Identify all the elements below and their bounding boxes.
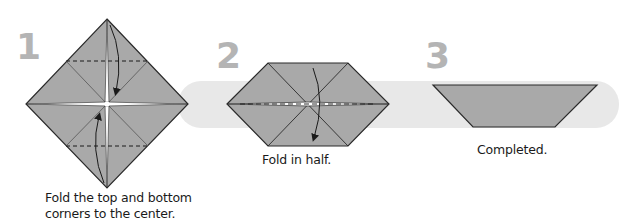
step-1-diamond xyxy=(26,19,188,188)
center-cross xyxy=(27,20,187,187)
step-1-caption: Fold the top and bottom corners to the c… xyxy=(45,190,192,222)
step-2-hexagon xyxy=(227,63,389,146)
origami-diagram: 1 2 3 Fold the top and bottom corners to… xyxy=(0,0,621,222)
step-3-caption: Completed. xyxy=(477,142,547,158)
diagram-canvas xyxy=(0,0,621,222)
step-1-number: 1 xyxy=(16,29,41,65)
step-2-number: 2 xyxy=(216,38,241,74)
step-2-caption: Fold in half. xyxy=(262,152,331,168)
step-1-caption-line2: corners to the center. xyxy=(45,206,192,222)
step-1-caption-line1: Fold the top and bottom xyxy=(45,190,192,206)
step-3-number: 3 xyxy=(425,38,450,74)
